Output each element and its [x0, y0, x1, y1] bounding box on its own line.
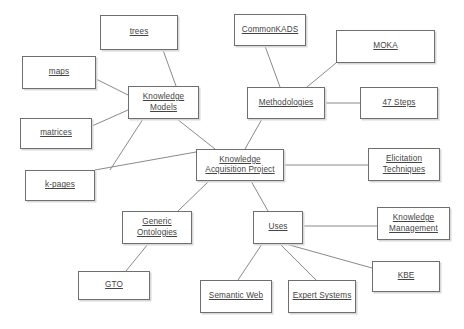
- node-label-trees-line-0: trees: [130, 27, 149, 38]
- node-label-uses-line-0: Uses: [268, 222, 287, 233]
- node-kbe[interactable]: KBE: [372, 261, 440, 292]
- node-label-semanticweb-line-0: Semantic Web: [209, 291, 263, 302]
- node-kap[interactable]: KnowledgeAcquisition Project: [196, 149, 284, 181]
- node-label-matrices-line-0: matrices: [40, 128, 72, 139]
- node-moka[interactable]: MOKA: [336, 30, 435, 63]
- node-label-gto-line-0: GTO: [105, 280, 123, 291]
- node-label-kbe-line-0: KBE: [398, 271, 415, 282]
- edge-kap-to-uses: [251, 181, 268, 211]
- node-label-kap-line-1: Acquisition Project: [205, 165, 274, 176]
- edge-uses-to-expertsystems: [280, 244, 316, 280]
- node-expertsystems[interactable]: Expert Systems: [288, 280, 356, 313]
- node-label-knowmodels-line-0: Knowledge: [143, 92, 184, 103]
- edge-moka-to-methodologies: [307, 63, 336, 87]
- node-steps47[interactable]: 47 Steps: [360, 87, 438, 119]
- node-uses[interactable]: Uses: [253, 211, 303, 244]
- node-matrices[interactable]: matrices: [20, 118, 92, 149]
- edge-genericont-to-gto: [126, 244, 148, 271]
- node-label-kap-line-0: Knowledge: [219, 155, 260, 166]
- edge-kpages-to-kap: [95, 152, 196, 170]
- node-label-knowmgmt-line-1: Management: [389, 224, 438, 235]
- edge-knowmodels-to-kap: [177, 119, 215, 149]
- node-label-expertsystems-line-0: Expert Systems: [293, 291, 352, 302]
- node-label-elicitation-line-1: Techniques: [383, 165, 425, 176]
- node-label-genericont-line-0: Generic: [142, 217, 171, 228]
- node-label-maps-line-0: maps: [49, 67, 69, 78]
- node-elicitation[interactable]: ElicitationTechniques: [368, 148, 440, 181]
- node-genericont[interactable]: GenericOntologies: [122, 211, 192, 244]
- node-maps[interactable]: maps: [22, 56, 96, 89]
- edge-trees-to-knowmodels: [163, 50, 176, 86]
- node-label-elicitation-line-0: Elicitation: [386, 154, 422, 165]
- node-trees[interactable]: trees: [100, 15, 178, 50]
- node-label-knowmodels-line-1: Models: [150, 103, 177, 114]
- node-commonkads[interactable]: CommonKADS: [234, 14, 306, 46]
- node-methodologies[interactable]: Methodologies: [247, 87, 325, 119]
- node-label-moka-line-0: MOKA: [373, 41, 398, 52]
- edge-kap-to-genericont: [178, 181, 209, 211]
- edge-maps-to-knowmodels: [96, 79, 128, 95]
- node-kpages[interactable]: k-pages: [25, 170, 95, 201]
- node-semanticweb[interactable]: Semantic Web: [200, 280, 272, 313]
- edge-matrices-to-knowmodels: [92, 110, 128, 126]
- node-label-steps47-line-0: 47 Steps: [382, 98, 415, 109]
- edge-commonkads-to-methodologies: [265, 46, 280, 87]
- node-label-knowmgmt-line-0: Knowledge: [393, 213, 434, 224]
- node-label-genericont-line-1: Ontologies: [137, 228, 177, 239]
- node-gto[interactable]: GTO: [78, 271, 150, 300]
- diagram-canvas: treesmapsmatricesk-pagesKnowledgeModelsC…: [0, 0, 464, 329]
- node-label-kpages-line-0: k-pages: [45, 180, 75, 191]
- node-label-methodologies-line-0: Methodologies: [259, 98, 314, 109]
- edge-uses-to-semanticweb: [238, 244, 262, 280]
- node-knowmgmt[interactable]: KnowledgeManagement: [377, 207, 450, 240]
- edge-uses-to-kbe: [286, 244, 372, 268]
- node-knowmodels[interactable]: KnowledgeModels: [128, 86, 199, 119]
- node-label-commonkads-line-0: CommonKADS: [242, 25, 299, 36]
- edge-methodologies-to-kap: [245, 119, 262, 149]
